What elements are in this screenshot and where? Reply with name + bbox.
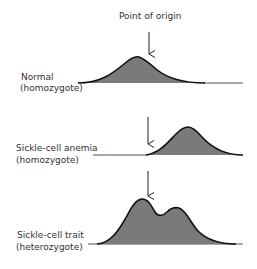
sickle-trait-band xyxy=(88,171,243,244)
normal-band xyxy=(78,32,243,83)
sickle-trait-label: Sickle-cell trait xyxy=(17,230,84,241)
electrophoresis-diagram: Point of origin Normal xyxy=(0,0,257,269)
sickle-anemia-sublabel: (homozygote) xyxy=(16,155,79,166)
diagram-graphics xyxy=(0,0,257,269)
sickle-anemia-band xyxy=(93,117,243,155)
normal-label: Normal xyxy=(21,72,54,83)
sickle-trait-sublabel: (heterozygote) xyxy=(16,242,83,253)
sickle-anemia-label: Sickle-cell anemia xyxy=(16,143,98,154)
normal-sublabel: (homozygote) xyxy=(20,83,83,94)
